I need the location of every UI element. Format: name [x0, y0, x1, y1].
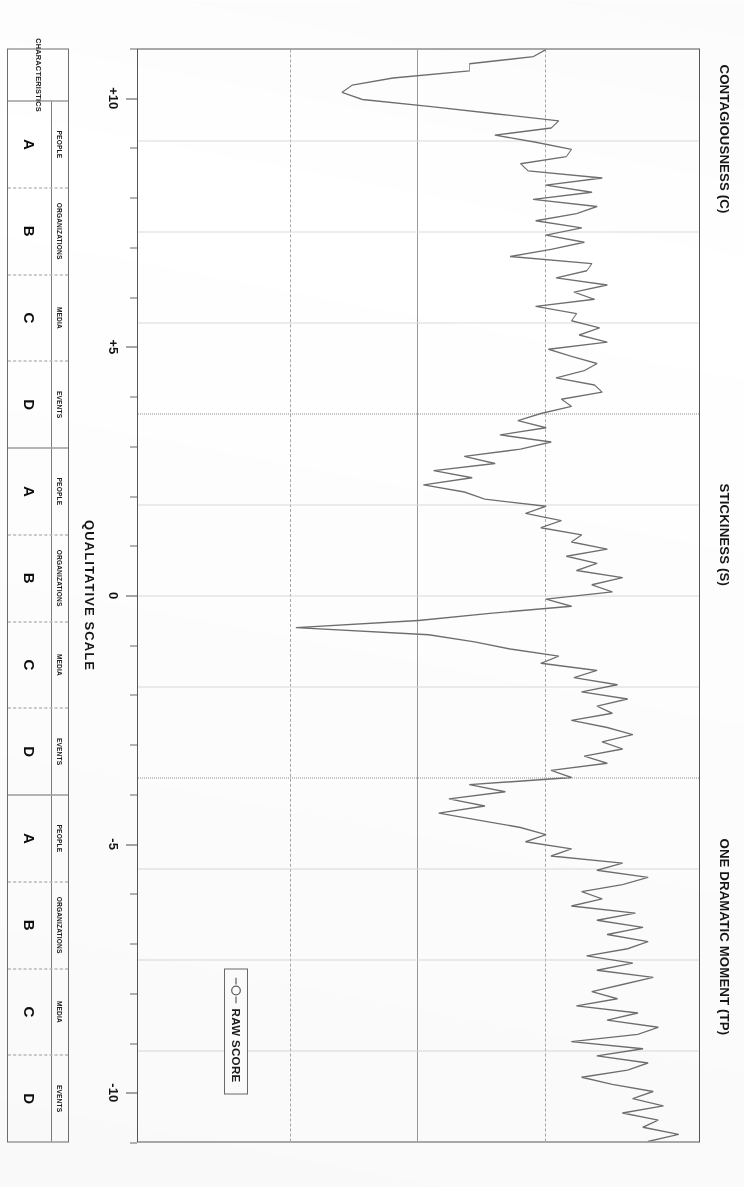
table-column-label: MEDIA [51, 275, 68, 361]
legend: RAW SCORE [224, 968, 248, 1094]
qualitative-scale-axis: QUALITATIVE SCALE +10+50-5-10 [75, 0, 137, 1187]
table-column: MEDIAC [8, 622, 68, 709]
axis-tick-major [126, 844, 137, 845]
table-column-label: EVENTS [51, 708, 68, 794]
axis-tick-major [126, 595, 137, 596]
axis-tick-minor [130, 545, 137, 546]
table-column: ORGANIZATIONSB [8, 882, 68, 969]
axis-tick-label: +10 [106, 87, 121, 109]
table-column-letter: C [8, 969, 51, 1055]
axis-tick-major [126, 346, 137, 347]
axis-tick-label: -10 [106, 1083, 121, 1102]
axis-tick-minor [130, 496, 137, 497]
table-column-letter: D [8, 708, 51, 794]
line-circle-marker-icon [230, 977, 242, 1003]
table-column-label: PEOPLE [51, 101, 68, 187]
plot-inner [138, 49, 699, 1141]
table-column-letter: C [8, 275, 51, 361]
axis-tick-minor [130, 1043, 137, 1044]
table-column-letter: D [8, 1055, 51, 1141]
table-column: EVENTSD [8, 1055, 68, 1141]
table-column: PEOPLEA [8, 101, 68, 188]
table-column-letter: A [8, 448, 51, 534]
table-column-letter: B [8, 535, 51, 621]
axis-tick-minor [130, 993, 137, 994]
table-column-label: ORGANIZATIONS [51, 535, 68, 621]
table-column-label: ORGANIZATIONS [51, 188, 68, 274]
axis-tick-minor [130, 396, 137, 397]
table-column-letter: B [8, 882, 51, 968]
table-column-label: PEOPLE [51, 795, 68, 881]
axis-tick-minor [130, 197, 137, 198]
table-column: ORGANIZATIONSB [8, 188, 68, 275]
table-column-letter: C [8, 622, 51, 708]
axis-tick-minor [130, 247, 137, 248]
axis-tick-rail [126, 48, 137, 1142]
axis-tick-minor [130, 48, 137, 49]
table-column: MEDIAC [8, 275, 68, 362]
axis-tick-minor [130, 694, 137, 695]
table-column-label: MEDIA [51, 622, 68, 708]
axis-tick-minor [130, 147, 137, 148]
axis-tick-major [126, 98, 137, 99]
axis-tick-minor [130, 744, 137, 745]
figure-canvas: CONTAGIOUSNESS (C) STICKINESS (S) ONE DR… [0, 0, 744, 1187]
table-column-label: EVENTS [51, 1055, 68, 1141]
table-row-header: CHARACTERISTICS [8, 49, 68, 101]
table-column-label: PEOPLE [51, 448, 68, 534]
characteristics-table: CHARACTERISTICS PEOPLEAORGANIZATIONSBMED… [7, 48, 69, 1142]
section-title-one-dramatic-moment: ONE DRAMATIC MOMENT (TP) [717, 838, 732, 1035]
table-column: MEDIAC [8, 969, 68, 1056]
table-column: EVENTSD [8, 361, 68, 448]
table-column-label: EVENTS [51, 361, 68, 447]
section-titles: CONTAGIOUSNESS (C) STICKINESS (S) ONE DR… [700, 0, 744, 1187]
axis-tick-minor [130, 893, 137, 894]
table-column-letter: A [8, 101, 51, 187]
table-column-label: ORGANIZATIONS [51, 882, 68, 968]
raw-score-polyline [296, 49, 679, 1141]
table-column-letter: D [8, 361, 51, 447]
table-column-letter: A [8, 795, 51, 881]
axis-tick-label: 0 [106, 591, 121, 598]
table-column: PEOPLEA [8, 448, 68, 535]
axis-tick-minor [130, 1142, 137, 1143]
axis-tick-minor [130, 446, 137, 447]
axis-title: QUALITATIVE SCALE [82, 48, 97, 1142]
table-column: ORGANIZATIONSB [8, 535, 68, 622]
table-column: PEOPLEA [8, 795, 68, 882]
axis-tick-minor [130, 794, 137, 795]
axis-tick-major [126, 1092, 137, 1093]
axis-tick-minor [130, 645, 137, 646]
table-column-letter: B [8, 188, 51, 274]
axis-tick-label: -5 [106, 838, 121, 850]
legend-label: RAW SCORE [230, 1008, 242, 1082]
raw-score-series [138, 49, 699, 1141]
section-title-contagiousness: CONTAGIOUSNESS (C) [717, 64, 732, 213]
table-column: EVENTSD [8, 708, 68, 795]
table-row-header-label: CHARACTERISTICS [34, 38, 42, 112]
axis-tick-label: +5 [106, 339, 121, 354]
table-columns: PEOPLEAORGANIZATIONSBMEDIACEVENTSDPEOPLE… [8, 101, 68, 1141]
plot-area [137, 48, 700, 1142]
axis-tick-minor [130, 943, 137, 944]
axis-tick-minor [130, 297, 137, 298]
section-title-stickiness: STICKINESS (S) [717, 483, 732, 585]
table-column-label: MEDIA [51, 969, 68, 1055]
